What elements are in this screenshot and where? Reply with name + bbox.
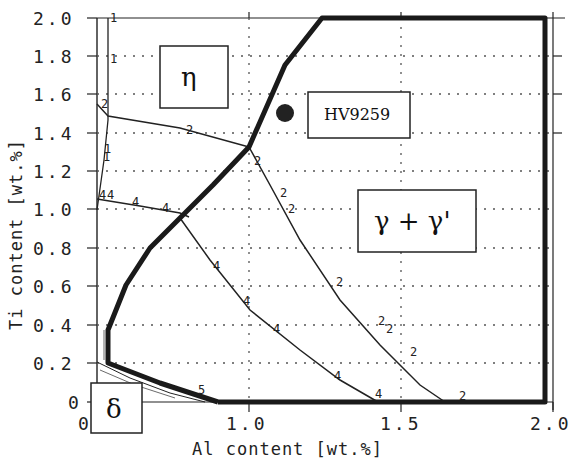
svg-text:1: 1	[110, 11, 117, 25]
svg-text:0.6: 0.6	[33, 276, 75, 297]
delta-phase-box: δ	[91, 383, 142, 433]
svg-text:0.2: 0.2	[33, 353, 75, 374]
x-axis-title: Al content [wt.%]	[192, 439, 383, 459]
svg-text:2: 2	[280, 186, 287, 200]
svg-text:4: 4	[273, 322, 280, 336]
sample-label-box: HV9259	[308, 92, 410, 138]
eta-phase-box: η	[160, 46, 228, 108]
svg-text:1.0: 1.0	[226, 413, 268, 434]
svg-text:4: 4	[243, 294, 250, 308]
svg-text:4: 4	[132, 195, 139, 209]
svg-text:2: 2	[254, 154, 261, 168]
svg-text:4: 4	[375, 387, 382, 401]
phase-diagram: 2.0 1.8 1.6 1.4 1.2 1.0 0.8 0.6 0.4 0.2 …	[0, 0, 583, 467]
sample-point-marker	[276, 104, 294, 122]
svg-text:η: η	[181, 62, 197, 92]
svg-text:2: 2	[410, 345, 417, 359]
svg-text:1.4: 1.4	[33, 123, 75, 144]
svg-text:1.6: 1.6	[33, 84, 75, 105]
svg-text:HV9259: HV9259	[324, 105, 390, 124]
gamma-gamma-prime-phase-box: γ + γ'	[358, 190, 476, 252]
svg-text:2: 2	[101, 97, 108, 111]
svg-text:1.5: 1.5	[380, 413, 422, 434]
x-tick-labels: 0 1.0 1.5 2.0	[78, 413, 572, 434]
svg-text:1: 1	[110, 52, 117, 66]
svg-text:δ: δ	[106, 394, 122, 424]
svg-text:2.0: 2.0	[33, 8, 75, 29]
y-tick-labels: 2.0 1.8 1.6 1.4 1.2 1.0 0.8 0.6 0.4 0.2 …	[33, 8, 82, 413]
svg-text:2: 2	[336, 275, 343, 289]
svg-text:2: 2	[288, 202, 295, 216]
y-axis-title: Ti content [wt.%]	[6, 139, 26, 330]
contour-2-upper	[97, 104, 249, 147]
svg-text:2: 2	[378, 314, 385, 328]
svg-text:4: 4	[107, 188, 114, 202]
svg-text:4: 4	[334, 369, 341, 383]
svg-text:2: 2	[386, 322, 393, 336]
svg-text:2: 2	[186, 123, 193, 137]
svg-text:0.8: 0.8	[33, 238, 75, 259]
svg-text:γ + γ': γ + γ'	[374, 206, 451, 236]
svg-text:1: 1	[103, 150, 110, 164]
svg-text:2.0: 2.0	[530, 413, 572, 434]
contour-2-right	[249, 147, 445, 402]
y-ticks	[87, 18, 562, 402]
svg-text:1.8: 1.8	[33, 46, 75, 67]
svg-text:4: 4	[162, 201, 169, 215]
svg-text:1.0: 1.0	[33, 199, 75, 220]
svg-text:1.2: 1.2	[33, 161, 75, 182]
svg-text:4: 4	[213, 259, 220, 273]
svg-text:2: 2	[459, 389, 466, 403]
svg-text:0: 0	[68, 392, 82, 413]
svg-text:5: 5	[198, 383, 205, 397]
svg-text:0.4: 0.4	[33, 315, 75, 336]
svg-text:4: 4	[99, 188, 106, 202]
svg-text:0: 0	[78, 413, 92, 434]
